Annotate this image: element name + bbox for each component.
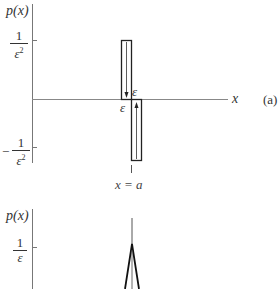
tick-b-denominator: ε: [11, 251, 29, 265]
top-tick-label: 1 ε2: [8, 29, 30, 61]
location-label: x = a: [115, 177, 143, 193]
panel-a-tag: (a): [263, 92, 277, 108]
arrow-down-icon: [125, 92, 129, 98]
left-width-label: ε: [120, 100, 125, 116]
bottom-tick-numerator: 1: [10, 136, 32, 149]
panel-a: [32, 4, 228, 173]
tick-b-numerator: 1: [11, 236, 29, 249]
right-width-label: ε: [132, 84, 137, 100]
panel-b: [32, 209, 139, 289]
x-axis-label: x: [232, 91, 238, 107]
arrow-up-icon: [135, 102, 139, 108]
top-tick-numerator: 1: [8, 29, 30, 42]
tick-label-b: 1 ε: [11, 236, 29, 265]
top-tick-power: 2: [20, 46, 24, 55]
y-label-b: p(x): [6, 208, 29, 224]
dipole-density-diagram: [0, 0, 280, 289]
y-label-a: p(x): [6, 3, 29, 19]
bottom-tick-power: 2: [22, 153, 26, 162]
bottom-tick-sign: −: [2, 144, 9, 160]
